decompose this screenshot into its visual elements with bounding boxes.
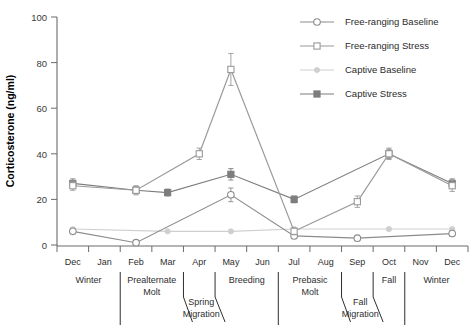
data-point bbox=[70, 183, 76, 189]
month-label-9: Sep bbox=[349, 257, 365, 267]
series-free-ranging-stress bbox=[70, 53, 456, 234]
month-label-12: Dec bbox=[444, 257, 461, 267]
month-label-5: May bbox=[222, 257, 240, 267]
data-point bbox=[228, 171, 234, 177]
season-label-fallmigration-1: Fall bbox=[353, 297, 368, 307]
series-captive-baseline bbox=[70, 226, 455, 233]
chart-legend: Free-ranging BaselineFree-ranging Stress… bbox=[300, 16, 438, 99]
season-label-spring-2: Migration bbox=[183, 309, 220, 319]
season-label-fallmigration-2: Migration bbox=[342, 309, 379, 319]
legend-label: Captive Stress bbox=[345, 88, 407, 99]
data-point bbox=[291, 196, 297, 202]
legend-label: Free-ranging Stress bbox=[345, 40, 429, 51]
data-point bbox=[165, 229, 170, 234]
data-point bbox=[133, 187, 139, 193]
month-label-3: Mar bbox=[160, 257, 176, 267]
data-point bbox=[228, 229, 233, 234]
data-point bbox=[386, 226, 391, 231]
month-label-7: Jul bbox=[288, 257, 300, 267]
month-label-6: Jun bbox=[255, 257, 270, 267]
legend-label: Captive Baseline bbox=[345, 64, 416, 75]
data-point bbox=[228, 192, 235, 199]
data-point bbox=[133, 239, 140, 246]
data-point bbox=[386, 151, 392, 157]
legend-marker bbox=[314, 67, 319, 72]
x-axis-month-labels: DecJanFebMarAprMayJunJulAugSepOctNovDec bbox=[65, 257, 461, 267]
y-tick-label-100: 100 bbox=[31, 12, 47, 23]
legend-marker bbox=[314, 19, 321, 26]
series-line bbox=[73, 229, 452, 231]
legend-item-free-ranging-stress bbox=[300, 43, 334, 49]
month-label-4: Apr bbox=[192, 257, 206, 267]
data-point bbox=[291, 228, 297, 234]
y-axis: 100 80 60 40 20 0 Corticosterone (ng/ml) bbox=[4, 12, 57, 251]
data-point bbox=[449, 183, 455, 189]
corticosterone-line-chart: 100 80 60 40 20 0 Corticosterone (ng/ml)… bbox=[0, 0, 473, 328]
legend-label: Free-ranging Baseline bbox=[345, 16, 438, 27]
legend-item-free-ranging-baseline bbox=[300, 19, 334, 26]
plot-series-group bbox=[70, 53, 456, 246]
month-label-8: Aug bbox=[318, 257, 334, 267]
data-point bbox=[354, 235, 361, 242]
season-bracket-group: WinterPrealternateMoltBreedingPrebasicMo… bbox=[76, 272, 450, 325]
series-captive-stress bbox=[70, 149, 456, 203]
chart-page: 100 80 60 40 20 0 Corticosterone (ng/ml)… bbox=[0, 0, 473, 328]
season-label-prealternate-2: Molt bbox=[143, 287, 161, 297]
month-label-11: Nov bbox=[413, 257, 430, 267]
month-label-1: Jan bbox=[97, 257, 112, 267]
y-tick-label-60: 60 bbox=[36, 103, 47, 114]
data-point bbox=[228, 66, 234, 72]
legend-marker bbox=[314, 43, 320, 49]
month-label-10: Oct bbox=[382, 257, 397, 267]
x-axis: DecJanFebMarAprMayJunJulAugSepOctNovDec bbox=[57, 246, 468, 267]
season-label-spring-1: Spring bbox=[188, 297, 214, 307]
season-label-winter-1: Winter bbox=[76, 275, 102, 285]
legend-item-captive-baseline bbox=[300, 67, 334, 72]
y-tick-label-40: 40 bbox=[36, 149, 47, 160]
data-point bbox=[196, 151, 202, 157]
season-label-fall: Fall bbox=[382, 275, 397, 285]
season-label-prebasic-2: Molt bbox=[301, 287, 319, 297]
season-label-winter-2: Winter bbox=[423, 275, 449, 285]
data-point bbox=[354, 199, 360, 205]
season-label-prebasic-1: Prebasic bbox=[292, 275, 328, 285]
y-axis-title: Corticosterone (ng/ml) bbox=[4, 75, 16, 188]
data-point bbox=[165, 189, 171, 195]
y-tick-label-0: 0 bbox=[42, 240, 47, 251]
legend-marker bbox=[314, 91, 320, 97]
month-label-0: Dec bbox=[65, 257, 82, 267]
series-free-ranging-baseline bbox=[70, 188, 456, 246]
series-line bbox=[73, 195, 452, 243]
season-label-prealternate-1: Prealternate bbox=[127, 275, 176, 285]
x-axis-ticks bbox=[57, 246, 468, 252]
legend-item-captive-stress bbox=[300, 91, 334, 97]
y-tick-label-80: 80 bbox=[36, 58, 47, 69]
data-point bbox=[70, 228, 77, 235]
season-label-breeding: Breeding bbox=[229, 275, 265, 285]
month-label-2: Feb bbox=[128, 257, 144, 267]
series-line bbox=[73, 154, 452, 200]
data-point bbox=[449, 230, 456, 237]
y-tick-label-20: 20 bbox=[36, 194, 47, 205]
